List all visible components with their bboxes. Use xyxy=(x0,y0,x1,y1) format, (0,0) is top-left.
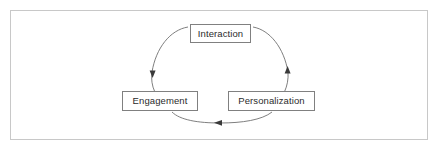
node-interaction: Interaction xyxy=(190,24,251,43)
figure-canvas: Interaction Engagement Personalization xyxy=(0,0,440,150)
arrowhead-right-up-icon xyxy=(285,66,291,74)
cycle-diagram-svg xyxy=(0,0,440,150)
node-interaction-label: Interaction xyxy=(198,29,243,39)
node-personalization-label: Personalization xyxy=(238,96,304,106)
node-personalization: Personalization xyxy=(228,91,315,111)
node-engagement: Engagement xyxy=(122,91,198,111)
arrowhead-bottom-left-icon xyxy=(214,120,222,126)
node-engagement-label: Engagement xyxy=(133,96,188,106)
arrowhead-left-down-icon xyxy=(150,71,156,79)
